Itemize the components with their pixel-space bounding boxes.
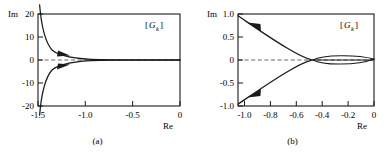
plot-panel-a: Im Re 20 10 0 -10 -20 -1.5 -1.0 -0.5 0 [… [0, 0, 195, 160]
gk-annotation-a: [ G k ] [145, 20, 163, 32]
y-tick-label-b-1: 0.5 [223, 32, 235, 42]
y-tick-label-a-1: 10 [25, 32, 35, 42]
x-tick-label-a-3: 0 [178, 110, 183, 120]
gk-symbol-b: G [344, 20, 351, 30]
y-tick-label-a-3: -10 [22, 78, 34, 88]
x-tick-label-b-1: -0.8 [263, 110, 278, 120]
gk-bracket-close-a: ] [160, 20, 163, 30]
x-tick-label-a-1: -1.0 [78, 110, 93, 120]
gk-annotation-b: [ G k ] [340, 20, 358, 32]
root-figure: Im Re 20 10 0 -10 -20 -1.5 -1.0 -0.5 0 [… [0, 0, 390, 160]
chart-a-svg: Im Re 20 10 0 -10 -20 -1.5 -1.0 -0.5 0 [… [0, 0, 195, 136]
y-tick-label-b-2: 0 [230, 55, 235, 65]
panel-caption-b: (b) [195, 136, 390, 146]
x-tick-label-b-0: -1.0 [237, 110, 252, 120]
y-axis-name-a: Im [8, 9, 18, 19]
gk-bracket-close-b: ] [355, 20, 358, 30]
plot-panel-b: Im Re 1.0 0.5 0 -0.5 -1.0 -1.0 -0.8 -0.6… [195, 0, 390, 160]
gk-subscript-b: k [351, 25, 354, 32]
x-tick-label-b-4: -0.2 [341, 110, 355, 120]
chart-b-svg: Im Re 1.0 0.5 0 -0.5 -1.0 -1.0 -0.8 -0.6… [195, 0, 390, 136]
gk-subscript-a: k [156, 25, 159, 32]
x-tick-label-a-2: -0.5 [125, 110, 140, 120]
x-axis-name-b: Re [357, 121, 367, 131]
gk-bracket-open-b: [ [340, 20, 343, 30]
y-tick-label-b-3: -0.5 [220, 78, 235, 88]
x-tick-label-b-2: -0.6 [289, 110, 304, 120]
x-tick-label-a-0: -1.5 [31, 110, 46, 120]
panel-caption-a: (a) [0, 136, 195, 146]
x-tick-label-b-3: -0.4 [315, 110, 330, 120]
gk-symbol-a: G [149, 20, 156, 30]
y-axis-name-b: Im [207, 9, 217, 19]
x-tick-label-b-5: 0 [372, 110, 377, 120]
y-tick-label-b-4: -1.0 [220, 101, 235, 111]
gk-bracket-open-a: [ [145, 20, 148, 30]
y-tick-label-b-0: 1.0 [223, 9, 235, 19]
x-axis-name-a: Re [163, 121, 173, 131]
y-tick-label-a-2: 0 [30, 55, 35, 65]
y-tick-label-a-0: 20 [25, 9, 35, 19]
